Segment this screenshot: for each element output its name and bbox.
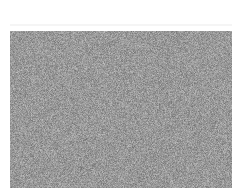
top-divider <box>10 24 232 26</box>
noise-canvas <box>10 31 232 188</box>
noise-image <box>10 31 232 188</box>
